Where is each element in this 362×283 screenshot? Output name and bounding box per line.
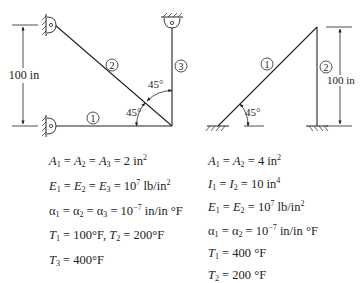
left-dimension-label: 100 in [9,68,39,82]
left-truss: 100 in 1 2 3 45° 45° [9,13,187,137]
right-eq-area: A1 = A2 = 4 in2 [208,154,281,169]
svg-text:1: 1 [91,113,96,124]
right-eq-inertia: I1 = I2 = 10 in4 [208,177,280,192]
svg-text:2: 2 [110,60,115,71]
svg-text:3: 3 [179,61,184,72]
left-eq-temp-3: T3 = 400°F [49,254,104,268]
right-member-1-label: 1 [261,58,273,70]
left-angle-label-lower: 45° [126,106,141,118]
svg-text:1: 1 [265,59,270,70]
left-eq-area: A1 = A2 = A3 = 2 in2 [49,154,147,169]
left-pin-support-bottom [42,115,56,137]
right-eq-temp-1: T1 = 400 °F [208,247,266,261]
left-dimension: 100 in [9,25,39,126]
left-eq-modulus: E1 = E2 = E3 = 107 lb/in2 [49,179,170,194]
left-member-2-label: 2 [106,59,118,71]
left-pin-support-right [161,13,183,28]
right-eq-temp-2: T2 = 200 °F [208,269,266,283]
left-member-1-label: 1 [87,112,99,124]
right-angle-label: 45° [245,106,260,118]
svg-text:2: 2 [324,62,329,73]
truss-frame-diagram: 100 in 1 2 3 45° 45° [0,0,362,140]
right-eq-alpha: α1 = α2 = 10−7 in/in °F [208,224,318,239]
right-member-2-label: 2 [320,61,332,73]
right-dimension: 100 in [326,27,355,126]
left-eq-alpha: α1 = α2 = α3 = 10−7 in/in °F [49,204,183,219]
right-member-1 [218,27,317,126]
right-dimension-label: 100 in [327,74,355,86]
right-fixed-support-left [206,126,229,131]
right-eq-modulus: E1 = E2 = 107 lb/in2 [208,200,304,215]
left-angle-arc-upper [147,91,172,102]
left-pin-support-top [42,14,56,36]
right-fixed-support-right [306,126,328,131]
left-member-2 [55,25,172,126]
right-frame: 1 2 100 in 45° [206,27,355,131]
left-eq-temps-1-2: T1 = 100°F, T2 = 200°F [49,229,164,243]
left-member-3-label: 3 [175,60,187,72]
left-angle-label-upper: 45° [148,78,163,90]
